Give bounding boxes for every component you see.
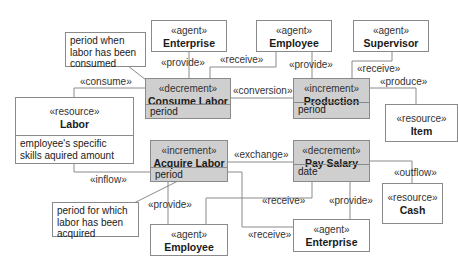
stereotype: «resource» [16,106,133,118]
agent-enterprise-bottom[interactable]: «agent»Enterprise [293,219,370,252]
stereotype: «agent» [294,224,369,236]
note-consumed: period when labor has been consumed [65,32,146,67]
stereotype: «agent» [257,25,331,37]
event-production[interactable]: «increment»Production period [293,78,370,119]
class-name: Enterprise [152,37,226,49]
class-name: Item [386,125,457,137]
stereotype: «agent» [152,25,226,37]
resource-item[interactable]: «resource»Item [385,104,458,142]
label-provide-employee-acquire: «provide» [148,199,192,210]
event-acquire-labor[interactable]: «increment»Acquire Labor period [150,140,228,182]
label-provide-employee-production: «provide» [289,59,333,70]
agent-supervisor[interactable]: «agent»Supervisor [353,20,429,52]
attribute: employee's specific skills aquired amoun… [16,135,133,162]
class-name: Supervisor [354,37,428,49]
note-text: period for which labor has been acquired [57,205,128,239]
stereotype: «increment» [151,145,227,157]
resource-cash[interactable]: «resource»Cash [382,183,443,224]
label-exchange: «exchange» [234,149,289,160]
agent-employee-bottom[interactable]: «agent»Employee [150,224,228,256]
label-conversion: «conversion» [233,85,292,96]
label-receive-enterprise-acquire: «receive» [248,229,291,240]
stereotype: «agent» [354,25,428,37]
label-provide-enterprise-consume: «provide» [161,57,205,68]
class-name: Enterprise [294,236,369,248]
note-text: period when labor has been consumed [70,35,136,69]
agent-enterprise-top[interactable]: «agent»Enterprise [151,20,227,52]
attribute: period [294,102,369,117]
attribute: period [151,167,227,182]
label-consume: «consume» [80,76,132,87]
attribute: date [294,164,369,179]
note-acquired: period for which labor has been acquired [52,202,139,237]
class-name: Labor [16,118,133,130]
stereotype: «decrement» [146,83,230,95]
stereotype: «resource» [383,192,442,204]
label-provide-enterprise-pay: «provide» [329,195,373,206]
attribute: period [146,104,230,119]
agent-employee-top[interactable]: «agent»Employee [256,20,332,52]
class-name: Cash [383,204,442,216]
label-receive-employee-consume: «receive» [220,54,263,65]
stereotype: «resource» [386,113,457,125]
stereotype: «decrement» [294,145,369,157]
label-outflow: «outflow» [394,167,437,178]
event-pay-salary[interactable]: «decrement»Pay Salary date [293,140,370,182]
class-name: Employee [151,241,227,253]
resource-labor[interactable]: «resource»Labor employee's specific skil… [15,97,134,164]
label-receive-supervisor-production: «receive» [357,63,400,74]
label-receive-employee-pay: «receive» [262,195,305,206]
stereotype: «increment» [294,83,369,95]
label-produce: «produce» [380,76,427,87]
stereotype: «agent» [151,229,227,241]
class-name: Employee [257,37,331,49]
event-consume-labor[interactable]: «decrement»Consume Labor period [145,78,231,119]
label-inflow: «inflow» [90,174,127,185]
